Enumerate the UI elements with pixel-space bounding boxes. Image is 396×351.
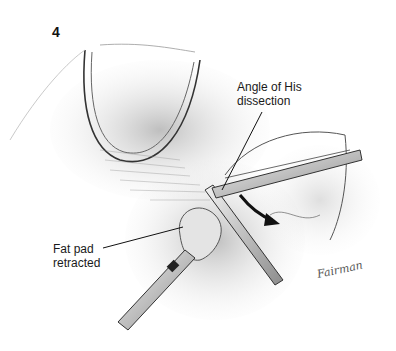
artist-signature: Fairman — [315, 259, 364, 282]
diaphragm-line — [100, 44, 195, 52]
label-fat-pad: Fat pad retracted — [53, 242, 100, 270]
figure-number: 4 — [52, 24, 60, 40]
label-angle-of-his: Angle of His dissection — [237, 80, 302, 108]
surgical-illustration: Fairman — [0, 0, 396, 351]
